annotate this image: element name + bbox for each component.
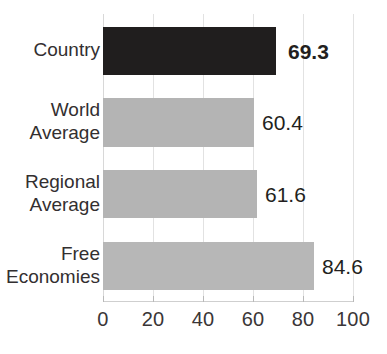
value-label-2: 61.6 <box>265 183 306 207</box>
tick-label-40: 40 <box>192 307 215 331</box>
tick-mark-60 <box>253 296 254 302</box>
tick-label-80: 80 <box>292 307 315 331</box>
bar-chart: CountryWorld AverageRegional AverageFree… <box>0 0 387 354</box>
bar-3[interactable] <box>103 242 314 290</box>
tick-mark-80 <box>303 296 304 302</box>
value-label-1: 60.4 <box>262 111 303 135</box>
category-label-3: Free Economies <box>6 242 100 288</box>
tick-label-100: 100 <box>336 307 370 331</box>
tick-mark-0 <box>103 296 104 302</box>
bar-0[interactable] <box>103 27 276 75</box>
tick-label-60: 60 <box>242 307 265 331</box>
category-label-0: Country <box>33 38 100 61</box>
bar-2[interactable] <box>103 170 257 218</box>
x-axis-line <box>103 301 354 302</box>
tick-label-20: 20 <box>142 307 165 331</box>
value-label-3: 84.6 <box>322 255 363 279</box>
tick-mark-20 <box>153 296 154 302</box>
bar-1[interactable] <box>103 98 254 147</box>
value-label-0: 69.3 <box>288 40 329 64</box>
category-label-2: Regional Average <box>25 170 100 216</box>
tick-mark-100 <box>353 296 354 302</box>
category-label-1: World Average <box>30 98 100 144</box>
tick-label-0: 0 <box>97 307 108 331</box>
tick-mark-40 <box>203 296 204 302</box>
